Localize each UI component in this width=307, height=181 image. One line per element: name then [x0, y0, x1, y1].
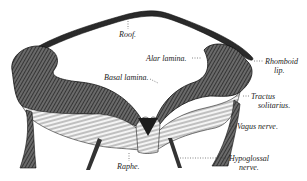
leader-basal	[150, 79, 158, 83]
label-raphe: Raphe.	[117, 162, 139, 171]
label-basal-lamina: Basal lamina.	[104, 73, 148, 82]
label-rhomboid-lip-1: Rhomboid	[265, 57, 298, 66]
label-roof: Roof.	[119, 30, 136, 39]
label-vagus-nerve: Vagus nerve.	[237, 122, 278, 131]
label-tractus-2: solitarius.	[258, 101, 290, 110]
label-tractus-1: Tractus	[251, 92, 275, 101]
label-alar-lamina: Alar lamina.	[146, 54, 186, 63]
right-hypoglossal-root	[168, 138, 182, 168]
label-hypoglossal-1: Hypoglossal	[229, 154, 269, 163]
label-rhomboid-lip-2: lip.	[274, 66, 284, 75]
label-hypoglossal-2: nerve.	[239, 163, 259, 172]
